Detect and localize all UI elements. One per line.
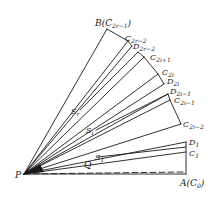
label-C2i-2: C2i−2 <box>183 120 204 130</box>
inner-line-S1 <box>98 147 186 157</box>
label-Q: Q <box>84 160 92 170</box>
label-P: P <box>14 170 22 180</box>
label-D2i: D2i <box>166 77 179 87</box>
fan-diagram: B(C2r−1) C2r−2 D2r−2 C2i+1 C2i D2i D2i−1… <box>0 0 218 206</box>
ray-PC2i-1 <box>24 100 170 174</box>
label-C1: C1 <box>189 149 199 159</box>
label-A: A(C0) <box>179 178 205 189</box>
label-Si: Si <box>86 126 93 136</box>
label-C2i+1: C2i+1 <box>150 53 171 63</box>
ray-PD2i-1 <box>24 94 168 174</box>
label-D1: D1 <box>188 138 199 148</box>
label-B: B(C2r−1) <box>94 18 132 29</box>
label-C2i-1: C2i−1 <box>174 96 195 106</box>
ray-PC2i-2 <box>24 124 181 174</box>
ray-PC1 <box>24 152 186 174</box>
diagram-svg: B(C2r−1) C2r−2 D2r−2 C2i+1 C2i D2i D2i−1… <box>0 0 218 206</box>
label-S1: S1 <box>95 153 104 163</box>
inner-line-Sr-2 <box>138 52 144 57</box>
